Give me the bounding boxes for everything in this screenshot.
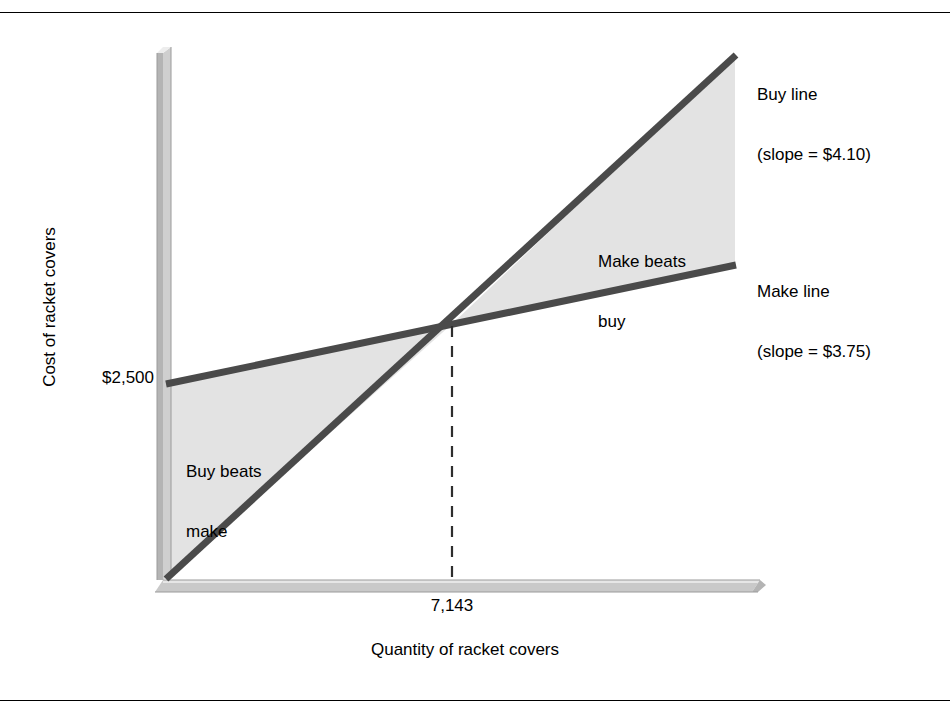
y-axis-value-label: $2,500 [62, 368, 154, 388]
region-label-buy-beats-make-line1: Buy beats [186, 462, 262, 482]
region-label-buy-beats-make-line2: make [186, 522, 262, 542]
y-axis-bar-shade [157, 53, 163, 580]
x-axis-title: Quantity of racket covers [230, 640, 700, 660]
make-line-callout-slope: (slope = $3.75) [757, 342, 871, 362]
buy-line-callout-slope: (slope = $4.10) [757, 145, 871, 165]
region-label-buy-beats-make: Buy beats make [186, 422, 262, 582]
make-line-callout-title: Make line [757, 282, 871, 302]
make-line-callout: Make line (slope = $3.75) [757, 242, 871, 402]
y-axis-title: Cost of racket covers [40, 197, 60, 417]
chart-page: Cost of racket covers Quantity of racket… [0, 0, 950, 722]
break-even-quantity-label: 7,143 [382, 596, 522, 616]
region-label-make-beats-buy-line1: Make beats [598, 252, 686, 272]
buy-line-callout-title: Buy line [757, 85, 871, 105]
region-label-make-beats-buy-line2: buy [598, 312, 686, 332]
buy-line-callout: Buy line (slope = $4.10) [757, 45, 871, 205]
region-label-make-beats-buy: Make beats buy [598, 212, 686, 372]
y-axis-bar-face [163, 47, 171, 580]
